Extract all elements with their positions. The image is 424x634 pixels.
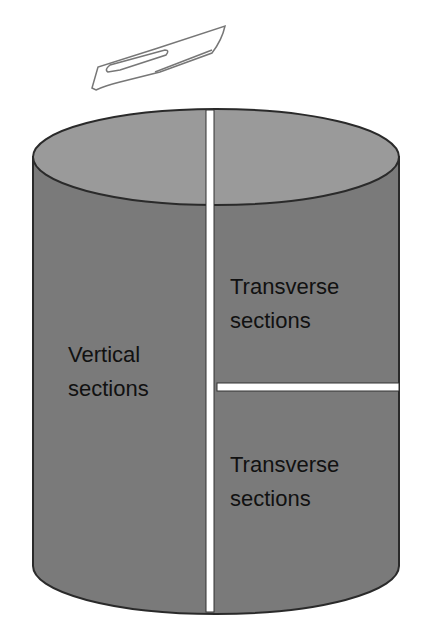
scalpel-icon: [92, 26, 225, 90]
vertical-cut: [206, 110, 214, 612]
cylinder-top: [33, 109, 399, 205]
transverse-cut: [217, 383, 399, 391]
cylinder-diagram: Vertical sections Transverse sections Tr…: [0, 0, 424, 634]
